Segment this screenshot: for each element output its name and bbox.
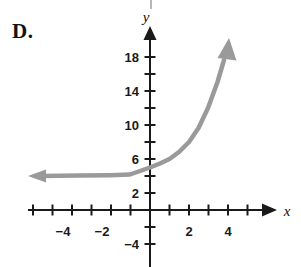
x-tick-label-neg4: −4 [56,224,72,239]
curve-left-arrow [28,170,46,183]
y-tick-label-neg4: −4 [124,237,140,252]
choice-label: D. [12,19,33,44]
x-tick-label-2: 2 [185,224,192,239]
y-axis-label: y [141,9,150,25]
x-tick-label-neg2: −2 [95,224,110,239]
y-tick-label-6: 6 [132,152,139,167]
y-tick-label-2: 2 [132,186,139,201]
coordinate-plane: −4 −2 2 4 18 14 10 6 2 −4 y x [0,0,301,267]
x-axis-arrow [262,204,277,217]
y-tick-label-10: 10 [125,118,139,133]
y-tick-label-18: 18 [125,50,139,65]
scan-artifact-mark [150,0,152,9]
graph-figure: D. [0,0,301,267]
x-tick-label-4: 4 [224,224,232,239]
x-axis-label: x [283,203,291,219]
y-tick-label-14: 14 [125,84,140,99]
y-axis-arrow [144,26,157,40]
curve-right-arrow [218,38,237,61]
